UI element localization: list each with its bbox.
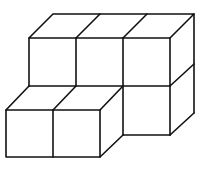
cube-diagram: [0, 0, 212, 173]
cube-drawing: [0, 0, 212, 173]
upper-row-top-faces: [29, 14, 194, 38]
right-side-faces: [123, 14, 194, 135]
lower-front-cubes: [6, 86, 123, 157]
